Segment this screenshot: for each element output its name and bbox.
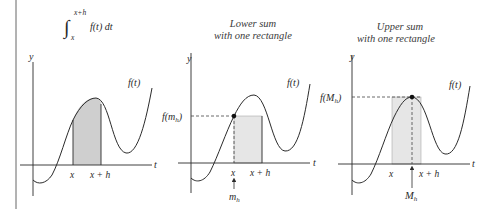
max-point-dot bbox=[410, 95, 415, 100]
tick-x: x bbox=[230, 168, 236, 178]
curve-label: f(t) bbox=[128, 77, 141, 89]
tick-x-plus-h: x + h bbox=[418, 169, 439, 179]
panel-integral: ∫ x+h x f(t) dt y t f(t) x x + h bbox=[20, 8, 157, 196]
min-point-dot bbox=[232, 114, 237, 119]
value-label-f-mh: f(mh) bbox=[162, 111, 183, 124]
t-axis-label: t bbox=[472, 158, 475, 169]
lower-rectangle bbox=[234, 116, 262, 163]
tick-x: x bbox=[388, 169, 394, 179]
tick-x: x bbox=[69, 170, 75, 180]
y-axis-label: y bbox=[186, 53, 192, 64]
point-label-mh: mh bbox=[229, 191, 240, 204]
value-label-f-Mh: f(Mh) bbox=[320, 92, 342, 105]
t-axis-label: t bbox=[313, 157, 316, 168]
upper-sum-title-line1: Upper sum bbox=[377, 21, 424, 32]
riemann-figure: ∫ x+h x f(t) dt y t f(t) x x + h Lower s… bbox=[0, 0, 498, 209]
integral-title: ∫ x+h x f(t) dt bbox=[62, 8, 113, 42]
t-axis-label: t bbox=[154, 159, 157, 170]
integral-lower-limit: x bbox=[70, 33, 75, 42]
y-axis-label: y bbox=[28, 51, 34, 62]
curve-label: f(t) bbox=[287, 77, 300, 89]
panel-upper-sum: Upper sum with one rectangle y t f(t) f(… bbox=[320, 21, 475, 203]
panel-lower-sum: Lower sum with one rectangle y t f(t) f(… bbox=[162, 18, 316, 204]
integral-sign: ∫ bbox=[62, 16, 71, 40]
tick-x-plus-h: x + h bbox=[89, 170, 110, 180]
curve-label: f(t) bbox=[449, 79, 462, 91]
y-axis-label: y bbox=[349, 51, 355, 62]
point-label-Mh: Mh bbox=[404, 190, 418, 203]
integral-shaded-area bbox=[73, 98, 101, 165]
lower-sum-title-line1: Lower sum bbox=[229, 18, 277, 29]
upper-rectangle bbox=[392, 97, 421, 164]
integral-upper-limit: x+h bbox=[73, 8, 86, 17]
lower-sum-title-line2: with one rectangle bbox=[214, 30, 292, 41]
tick-x-plus-h: x + h bbox=[249, 168, 270, 178]
upper-sum-title-line2: with one rectangle bbox=[357, 33, 435, 44]
integrand: f(t) dt bbox=[90, 21, 113, 33]
